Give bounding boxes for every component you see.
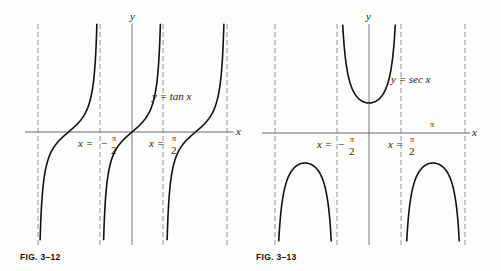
curve-label: y = sec x [390, 73, 431, 85]
figure-caption: FIG. 3–13 [256, 252, 297, 262]
svg-text:x =: x = [77, 137, 93, 149]
svg-text:π: π [350, 135, 354, 144]
y-axis-label: y [129, 10, 135, 22]
svg-text:x =: x = [148, 137, 164, 149]
svg-text:π: π [172, 134, 176, 143]
svg-text:−: − [338, 138, 344, 150]
y-axis-label: y [365, 10, 371, 22]
asymptote-label-neg: x = − π 2 [77, 134, 117, 156]
x-axis-label: x [235, 125, 241, 137]
svg-text:−: − [101, 137, 107, 149]
tan-figure: y x y = tan x x = − π 2 x = π 2 [25, 10, 241, 245]
figure-canvas: y x y = tan x x = − π 2 x = π 2 [0, 0, 501, 271]
svg-text:x =: x = [387, 138, 403, 150]
svg-text:2: 2 [409, 145, 415, 157]
sec-figure: y x y = sec x π x = − π 2 x = π 2 [262, 10, 477, 245]
pi-label: π [430, 120, 434, 129]
asymptote-lines [275, 24, 465, 245]
curve-label: y = tan x [151, 90, 192, 102]
asymptote-label-pos: x = π 2 [148, 134, 177, 156]
asymptote-label-neg: x = − π 2 [316, 135, 355, 157]
svg-text:x =: x = [316, 138, 332, 150]
svg-text:2: 2 [171, 144, 177, 156]
svg-text:2: 2 [349, 145, 355, 157]
x-axis-label: x [471, 126, 477, 138]
svg-text:π: π [112, 134, 116, 143]
svg-text:2: 2 [111, 144, 117, 156]
svg-text:π: π [410, 135, 414, 144]
figure-caption: FIG. 3–12 [20, 252, 61, 262]
